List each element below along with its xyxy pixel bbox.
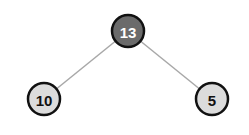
tree-node-root[interactable]: 13 [112,15,144,47]
nodes: 13 10 5 [28,15,228,115]
node-label: 10 [36,92,53,109]
tree-node-left[interactable]: 10 [28,83,60,115]
node-label: 13 [120,24,137,41]
tree-diagram: 13 10 5 [0,0,249,135]
node-label: 5 [208,92,216,109]
tree-node-right[interactable]: 5 [196,83,228,115]
